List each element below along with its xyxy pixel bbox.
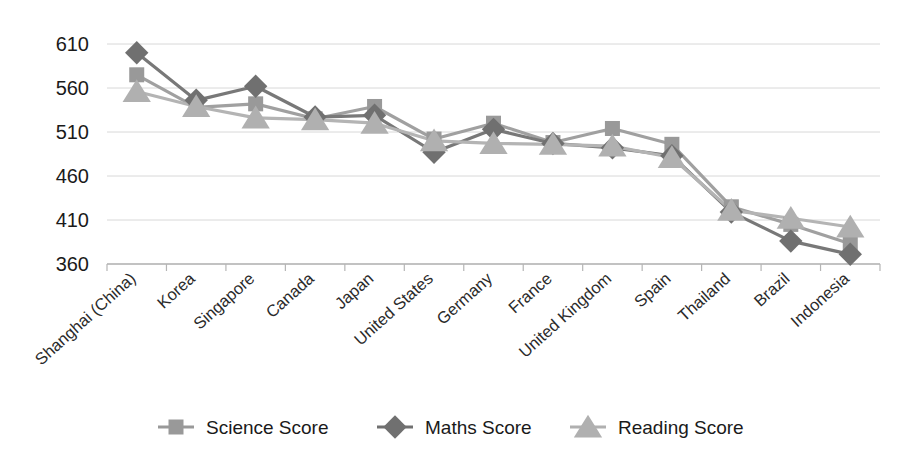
x-axis-tick-label: Japan xyxy=(331,269,376,312)
legend-label: Maths Score xyxy=(425,417,532,438)
series-markers-group xyxy=(123,41,865,266)
clipped-title-text xyxy=(0,0,898,2)
x-axis-tick-label: Thailand xyxy=(674,269,733,325)
x-axis-tick-label: Korea xyxy=(153,268,198,311)
legend-diamond-marker xyxy=(383,415,406,438)
x-axis-line-group xyxy=(107,264,880,271)
x-axis-labels-group: Shanghai (China)KoreaSingaporeCanadaJapa… xyxy=(31,268,853,368)
chart-legend: Science ScoreMaths ScoreReading Score xyxy=(158,415,744,439)
series-line-reading-score xyxy=(137,92,851,228)
x-axis-tick-label: France xyxy=(505,269,555,317)
legend-label: Reading Score xyxy=(618,417,744,438)
data-point-diamond-marker xyxy=(779,229,802,252)
data-point-diamond-marker xyxy=(244,75,267,98)
legend-label: Science Score xyxy=(206,417,329,438)
y-axis-tick-label: 410 xyxy=(56,209,89,231)
y-axis-tick-label: 610 xyxy=(56,33,89,55)
y-axis-tick-label: 360 xyxy=(56,253,89,275)
chart-figure: 360410460510560610 Shanghai (China)Korea… xyxy=(0,0,898,467)
y-axis-tick-label: 460 xyxy=(56,165,89,187)
x-axis-tick-label: Brazil xyxy=(750,269,793,310)
x-axis-tick-label: Singapore xyxy=(190,269,258,333)
data-point-diamond-marker xyxy=(839,243,862,266)
legend-square-marker xyxy=(169,420,184,435)
x-axis-tick-label: Canada xyxy=(262,268,318,321)
x-axis-tick-label: Spain xyxy=(630,269,673,311)
y-axis-labels-group: 360410460510560610 xyxy=(56,33,89,275)
x-axis-tick-label: Shanghai (China) xyxy=(31,269,138,368)
x-axis-tick-label: Indonesia xyxy=(787,268,853,330)
gridlines-group xyxy=(107,44,880,264)
data-point-square-marker xyxy=(605,121,620,136)
x-axis-tick-label: Germany xyxy=(433,268,496,327)
data-point-triangle-marker xyxy=(123,79,151,102)
y-axis-tick-label: 510 xyxy=(56,121,89,143)
line-chart-canvas: 360410460510560610 Shanghai (China)Korea… xyxy=(0,0,898,467)
y-axis-tick-label: 560 xyxy=(56,77,89,99)
